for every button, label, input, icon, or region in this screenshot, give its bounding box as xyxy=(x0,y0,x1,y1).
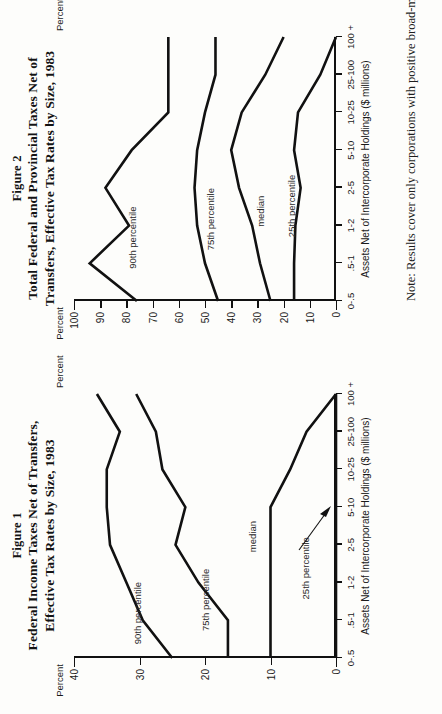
figure-1-ytick-10 xyxy=(271,658,272,665)
figure-1-ylabel-40: 40 xyxy=(69,669,80,680)
figure-2-label-90th: 90th percentile xyxy=(126,206,137,268)
figure-1-25th-percentile-arrow xyxy=(74,394,336,658)
figure-2-number: Figure 2 xyxy=(10,0,25,357)
figure-2-ylabel-80: 80 xyxy=(121,312,132,323)
figure-2-xtick-5 xyxy=(336,111,342,112)
figure-2-xlabel-1: .5-1 xyxy=(345,255,356,271)
page-note: Note: Results cover only corporations wi… xyxy=(404,0,419,301)
figure-2-ytick-10 xyxy=(310,301,311,308)
series-25th-percentile xyxy=(294,37,336,301)
figure-1-xlabel-4: 5-10 xyxy=(345,498,356,517)
figure-1-title-line-1: Federal Income Taxes Net of Transfers, xyxy=(25,357,41,714)
figure-2-ytick-70 xyxy=(153,301,154,308)
figure-1-ylabel-10: 10 xyxy=(265,669,276,680)
figure-2-ytick-20 xyxy=(284,301,285,308)
figure-1-xlabel-3: 2-5 xyxy=(345,538,356,552)
figure-2-label-75th: 75th percentile xyxy=(205,188,216,250)
figure-2-ytick-50 xyxy=(205,301,206,308)
figure-2-ylabel-20: 20 xyxy=(278,312,289,323)
figure-2: Figure 2 Total Federal and Provincial Ta… xyxy=(0,0,442,357)
figure-2-ylabel-10: 10 xyxy=(304,312,315,323)
figure-2-xlabel-7: 100 + xyxy=(345,25,356,49)
figure-1-ytick-20 xyxy=(205,658,206,665)
figure-1-ylabel-30: 30 xyxy=(134,669,145,680)
figure-2-xtick-7 xyxy=(336,36,342,37)
figure-2-xlabel-3: 2-5 xyxy=(345,181,356,195)
figure-2-x-axis-caption: Assets Net of Intercorporate Holdings ($… xyxy=(360,60,371,277)
figure-2-title-line-2: Transfers, Effective Tax Rates by Size, … xyxy=(42,0,58,357)
figure-2-xlabel-0: 0-.5 xyxy=(345,293,356,309)
figure-2-ytick-0 xyxy=(336,301,337,310)
figure-2-ytick-80 xyxy=(126,301,127,308)
figure-2-ylabel-90: 90 xyxy=(95,312,106,323)
figure-1-xlabel-5: 10-25 xyxy=(345,457,356,481)
figure-2-xlabel-4: 5-10 xyxy=(345,141,356,160)
figure-1-ytick-0 xyxy=(336,658,337,667)
figure-2-ylabel-100: 100 xyxy=(69,312,80,329)
figure-2-ytick-100 xyxy=(74,301,75,310)
figure-2-ylabel-70: 70 xyxy=(147,312,158,323)
figure-2-ytick-90 xyxy=(100,301,101,308)
series-median xyxy=(231,37,283,301)
figure-1-ylabel-0: 0 xyxy=(331,669,342,675)
figure-2-xtick-3 xyxy=(336,186,342,187)
figure-2-series-lines xyxy=(74,37,336,301)
figure-2-title-line-1: Total Federal and Provincial Taxes Net o… xyxy=(25,0,41,357)
series-75th-percentile xyxy=(195,37,219,301)
figure-2-label-25th: 25th percentile xyxy=(286,175,297,237)
figure-1-xlabel-6: 25-100 xyxy=(345,417,356,447)
figure-2-ylabel-30: 30 xyxy=(252,312,263,323)
figure-2-ytick-60 xyxy=(179,301,180,308)
figure-1-xlabel-1: .5-1 xyxy=(345,612,356,628)
figure-2-title: Figure 2 Total Federal and Provincial Ta… xyxy=(10,0,58,357)
figure-2-xtick-1 xyxy=(336,262,342,263)
figure-2-ylabel-0: 0 xyxy=(331,312,342,318)
figure-2-plot-area: 100 90 80 70 60 50 40 30 20 10 0 0-.5 .5… xyxy=(74,37,336,301)
figure-1-x-axis-caption: Assets Net of Intercorporate Holdings ($… xyxy=(360,417,371,634)
figure-2-xlabel-2: 1-2 xyxy=(345,219,356,233)
figure-1-ytick-40 xyxy=(74,658,75,667)
figure-2-xtick-2 xyxy=(336,224,342,225)
figure-2-ylabel-50: 50 xyxy=(200,312,211,323)
figure-2-xtick-4 xyxy=(336,149,342,150)
figure-1-xtick-7 xyxy=(336,393,342,394)
figure-2-xtick-0 xyxy=(336,300,342,301)
figure-2-ylabel-40: 40 xyxy=(226,312,237,323)
figure-1-plot-area: 40 30 20 10 0 0-.5 .5-1 1-2 2-5 5-10 10-… xyxy=(74,394,336,658)
figure-1-percent-label-right: Percent xyxy=(54,355,65,388)
figure-1-xlabel-2: 1-2 xyxy=(345,576,356,590)
figure-2-xlabel-6: 25-100 xyxy=(345,60,356,90)
figure-1-ylabel-20: 20 xyxy=(200,669,211,680)
figure-1-xlabel-0: 0-.5 xyxy=(345,650,356,666)
figure-2-xtick-6 xyxy=(336,73,342,74)
figure-2-ylabel-60: 60 xyxy=(173,312,184,323)
figure-1-percent-label-left: Percent xyxy=(54,664,65,697)
figure-2-label-median: median xyxy=(255,196,266,227)
figure-2-ytick-40 xyxy=(231,301,232,308)
figure-1-ytick-30 xyxy=(140,658,141,665)
figure-1-number: Figure 1 xyxy=(10,357,25,714)
figure-1-title-line-2: Effective Tax Rates by Size, 1983 xyxy=(42,357,58,714)
figure-2-percent-label-left: Percent xyxy=(54,307,65,340)
figure-1: Figure 1 Federal Income Taxes Net of Tra… xyxy=(0,357,442,714)
figure-2-percent-label-right: Percent xyxy=(54,0,65,31)
figure-1-xlabel-7: 100 + xyxy=(345,382,356,406)
scanned-page: Figure 1 Federal Income Taxes Net of Tra… xyxy=(0,0,442,714)
figure-2-xlabel-5: 10-25 xyxy=(345,100,356,124)
figure-2-ytick-30 xyxy=(257,301,258,308)
figure-1-title: Figure 1 Federal Income Taxes Net of Tra… xyxy=(10,357,58,714)
